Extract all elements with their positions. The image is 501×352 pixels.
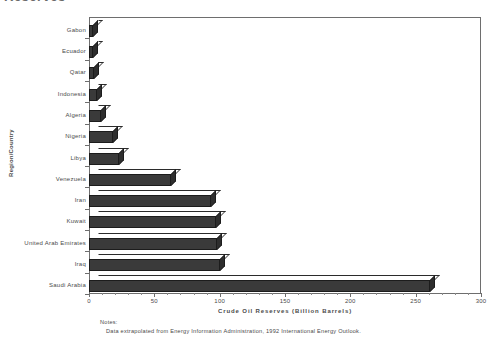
x-axis-major-tick bbox=[350, 293, 351, 297]
x-axis-minor-tick bbox=[376, 293, 377, 295]
y-axis-tick-label: Iran bbox=[0, 197, 86, 203]
bar-front-face bbox=[89, 153, 119, 165]
bar-front-face bbox=[89, 259, 220, 271]
y-axis-tick-label: Ecuador bbox=[0, 48, 86, 54]
y-axis-tick bbox=[85, 81, 89, 82]
x-axis-minor-tick bbox=[259, 293, 260, 295]
y-axis-tick-label: Indonesia bbox=[0, 91, 86, 97]
y-axis-tick bbox=[85, 187, 89, 188]
x-axis-minor-tick bbox=[363, 293, 364, 295]
x-axis-major-tick bbox=[154, 293, 155, 297]
x-axis-major-tick bbox=[416, 293, 417, 297]
x-axis-major-tick bbox=[89, 293, 90, 297]
x-axis-minor-tick bbox=[102, 293, 103, 295]
x-axis-minor-tick bbox=[167, 293, 168, 295]
y-axis-tick-labels: GabonEcuadorQatarIndonesiaAlgeriaNigeria… bbox=[0, 0, 86, 352]
x-axis-minor-tick bbox=[233, 293, 234, 295]
bar-front-face bbox=[89, 89, 97, 101]
x-axis-minor-tick bbox=[311, 293, 312, 295]
x-axis-minor-tick bbox=[298, 293, 299, 295]
x-axis-major-tick bbox=[481, 293, 482, 297]
y-axis-tick bbox=[85, 251, 89, 252]
bar-front-face bbox=[89, 174, 171, 186]
y-axis-tick bbox=[85, 145, 89, 146]
y-axis-tick-label: Gabon bbox=[0, 27, 86, 33]
y-axis-tick-label: Qatar bbox=[0, 69, 86, 75]
x-axis-minor-tick bbox=[272, 293, 273, 295]
bar-front-face bbox=[89, 238, 217, 250]
y-axis-tick-label: Venezuela bbox=[0, 176, 86, 182]
x-axis-major-tick bbox=[285, 293, 286, 297]
bar-front-face bbox=[89, 280, 430, 292]
y-axis-tick bbox=[85, 102, 89, 103]
y-axis-tick bbox=[85, 273, 89, 274]
bar-front-face bbox=[89, 216, 216, 228]
x-axis-minor-tick bbox=[429, 293, 430, 295]
bar-front-face bbox=[89, 131, 113, 143]
y-axis-tick-label: Iraq bbox=[0, 261, 86, 267]
x-axis-minor-tick bbox=[455, 293, 456, 295]
x-axis-tick-label: 50 bbox=[151, 298, 158, 304]
y-axis-tick bbox=[85, 166, 89, 167]
y-axis-tick bbox=[85, 209, 89, 210]
y-axis-tick-label: Saudi Arabia bbox=[0, 282, 86, 288]
y-axis-tick-label: Algeria bbox=[0, 112, 86, 118]
x-axis-minor-tick bbox=[207, 293, 208, 295]
x-axis-minor-tick bbox=[468, 293, 469, 295]
x-axis-minor-tick bbox=[390, 293, 391, 295]
x-axis-minor-tick bbox=[194, 293, 195, 295]
bar-front-face bbox=[89, 110, 101, 122]
x-axis-minor-tick bbox=[115, 293, 116, 295]
x-axis-tick-label: 0 bbox=[87, 298, 91, 304]
x-axis-tick-label: 200 bbox=[345, 298, 356, 304]
y-axis-tick-label: Nigeria bbox=[0, 133, 86, 139]
y-axis-tick-label: Kuwait bbox=[0, 218, 86, 224]
x-axis-tick-label: 300 bbox=[476, 298, 487, 304]
y-axis-tick bbox=[85, 124, 89, 125]
notes-body: Data extrapolated from Energy Informatio… bbox=[100, 327, 361, 336]
notes-block: Notes: Data extrapolated from Energy Inf… bbox=[100, 318, 361, 335]
plot-area bbox=[89, 17, 481, 294]
x-axis-minor-tick bbox=[337, 293, 338, 295]
x-axis-minor-tick bbox=[180, 293, 181, 295]
x-axis-minor-tick bbox=[403, 293, 404, 295]
x-axis-title: Crude Oil Reserves (Billion Barrels) bbox=[89, 308, 481, 314]
x-axis-minor-tick bbox=[128, 293, 129, 295]
notes-heading: Notes: bbox=[100, 318, 361, 327]
y-axis-tick-label: United Arab Emirates bbox=[0, 240, 86, 246]
y-axis-tick bbox=[85, 230, 89, 231]
x-axis-minor-tick bbox=[141, 293, 142, 295]
x-axis-tick-label: 250 bbox=[410, 298, 421, 304]
x-axis-major-tick bbox=[220, 293, 221, 297]
x-axis-tick-label: 100 bbox=[214, 298, 225, 304]
bar-front-face bbox=[89, 195, 211, 207]
y-axis-tick bbox=[85, 60, 89, 61]
x-axis-minor-tick bbox=[442, 293, 443, 295]
x-axis-minor-tick bbox=[324, 293, 325, 295]
y-axis-tick-label: Libya bbox=[0, 155, 86, 161]
y-axis-tick bbox=[85, 38, 89, 39]
x-axis-tick-label: 150 bbox=[280, 298, 291, 304]
x-axis-minor-tick bbox=[246, 293, 247, 295]
